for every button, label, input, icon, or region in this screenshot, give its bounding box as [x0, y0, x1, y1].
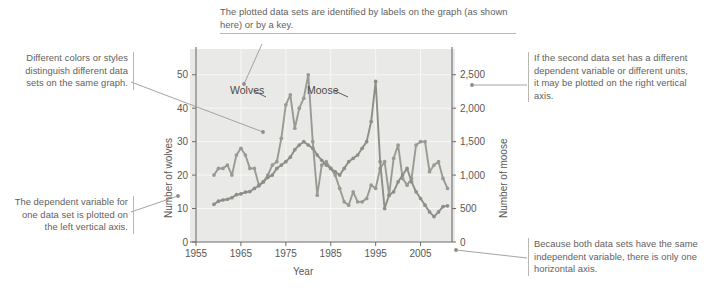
series-point-moose: [396, 180, 400, 184]
series-point-wolves: [253, 167, 257, 171]
annotation-right-lower: Because both data sets have the same ind…: [528, 238, 702, 276]
series-point-moose: [360, 146, 364, 150]
series-point-moose: [446, 204, 450, 208]
series-label-leader-moose: [335, 91, 348, 97]
series-point-wolves: [392, 157, 396, 161]
y2-axis-tick-label: 2,500: [460, 69, 485, 80]
series-point-moose: [226, 197, 230, 201]
annotation-right-upper: If the second data set has a different d…: [528, 52, 694, 102]
annotation-leader-1: [244, 44, 262, 84]
annotation-leader-dot-5: [454, 248, 458, 252]
series-point-wolves: [423, 140, 427, 144]
figure: 0102030405005001,0001,5002,0002,50019551…: [0, 0, 716, 297]
series-point-moose: [257, 184, 261, 188]
series-point-wolves: [441, 177, 445, 181]
annotation-top: The plotted data sets are identified by …: [220, 6, 516, 34]
series-point-wolves: [288, 93, 292, 97]
series-point-wolves: [217, 167, 221, 171]
series-point-moose: [387, 193, 391, 197]
series-point-wolves: [284, 103, 288, 107]
annotation-leader-dot-3: [176, 194, 180, 198]
series-point-moose: [401, 173, 405, 177]
series-point-moose: [437, 210, 441, 214]
series-point-moose: [351, 157, 355, 161]
series-point-wolves: [244, 153, 248, 157]
x-axis-title: Year: [293, 266, 313, 277]
annotation-left-lower: The dependent variable for one data set …: [10, 196, 134, 234]
series-point-moose: [383, 207, 387, 211]
y2-axis-title: Number of moose: [498, 139, 509, 218]
series-point-moose: [347, 160, 351, 164]
series-point-wolves: [432, 163, 436, 167]
y-axis-tick-label: 0: [182, 237, 188, 248]
series-point-wolves: [338, 187, 342, 191]
series-point-moose: [284, 160, 288, 164]
series-point-wolves: [212, 173, 216, 177]
series-point-wolves: [221, 167, 225, 171]
series-point-wolves: [410, 177, 414, 181]
series-point-moose: [239, 192, 243, 196]
series-point-moose: [279, 163, 283, 167]
series-point-wolves: [360, 200, 364, 204]
x-axis-tick-label: 1975: [275, 248, 298, 259]
series-point-wolves: [230, 173, 234, 177]
series-point-moose: [428, 210, 432, 214]
series-point-moose: [315, 153, 319, 157]
series-point-wolves: [378, 167, 382, 171]
series-point-wolves: [419, 140, 423, 144]
series-point-moose: [311, 146, 315, 150]
x-axis-tick-label: 1985: [320, 248, 343, 259]
x-axis-tick-label: 2005: [409, 248, 432, 259]
series-point-wolves: [383, 160, 387, 164]
series-point-wolves: [324, 160, 328, 164]
series-point-moose: [248, 190, 252, 194]
annotation-left-upper: Different colors or styles distinguish d…: [10, 52, 134, 90]
series-point-moose: [271, 173, 275, 177]
series-point-moose: [324, 163, 328, 167]
series-point-moose: [293, 148, 297, 152]
series-label-wolves: Wolves: [230, 84, 264, 96]
series-point-moose: [392, 190, 396, 194]
annotation-leader-5: [456, 250, 527, 258]
y2-axis-tick-label: 0: [460, 237, 466, 248]
y-axis-tick-label: 20: [177, 170, 189, 181]
series-point-wolves: [257, 183, 261, 187]
series-point-moose: [365, 140, 369, 144]
series-point-wolves: [365, 197, 369, 201]
annotation-leader-2: [131, 82, 263, 132]
series-point-moose: [329, 167, 333, 171]
series-point-wolves: [396, 143, 400, 147]
series-point-wolves: [279, 136, 283, 140]
y-axis-tick-label: 30: [177, 136, 189, 147]
y2-axis-tick-label: 1,000: [460, 170, 485, 181]
series-point-wolves: [356, 200, 360, 204]
series-point-moose: [288, 155, 292, 159]
series-point-moose: [212, 202, 216, 206]
y2-axis-tick-label: 500: [460, 203, 477, 214]
series-point-moose: [333, 170, 337, 174]
x-axis-tick-label: 1965: [230, 248, 253, 259]
series-point-moose: [423, 203, 427, 207]
series-point-wolves: [347, 203, 351, 207]
series-point-wolves: [320, 163, 324, 167]
series-point-moose: [320, 159, 324, 163]
series-point-wolves: [387, 193, 391, 197]
series-line-moose: [214, 81, 448, 216]
x-axis-tick-label: 1995: [365, 248, 388, 259]
series-point-moose: [266, 176, 270, 180]
series-label-moose: Moose: [307, 84, 339, 96]
series-point-wolves: [248, 167, 252, 171]
series-point-wolves: [271, 163, 275, 167]
y-axis-title: Number of wolves: [163, 138, 174, 218]
annotation-leader-dot-2: [261, 130, 265, 134]
series-point-wolves: [275, 160, 279, 164]
series-point-moose: [441, 205, 445, 209]
series-group: [212, 73, 449, 219]
series-point-moose: [306, 143, 310, 147]
series-point-moose: [217, 199, 221, 203]
series-point-moose: [419, 197, 423, 201]
y-axis-tick-label: 10: [177, 203, 189, 214]
series-point-wolves: [369, 183, 373, 187]
series-point-wolves: [293, 126, 297, 130]
y2-axis-tick-label: 1,500: [460, 136, 485, 147]
